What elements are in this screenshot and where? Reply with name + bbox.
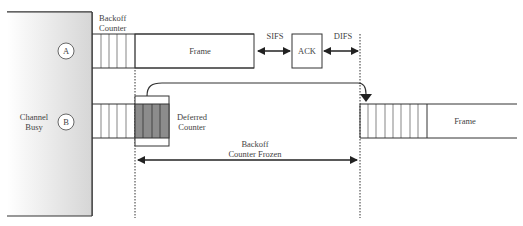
backoff-frozen-line1: Backoff	[210, 139, 300, 149]
frame-b-label: Frame	[445, 116, 485, 126]
station-b-label: B	[60, 117, 72, 127]
difs-label: DIFS	[328, 31, 358, 41]
station-a-label: A	[60, 46, 72, 56]
backoff-frozen-label: Backoff Counter Frozen	[210, 139, 300, 159]
station-a-backoff-counter	[92, 34, 254, 68]
backoff-counter-label-line2: Counter	[99, 23, 126, 33]
channel-busy-line2: Busy	[16, 122, 52, 132]
sifs-label: SIFS	[260, 31, 290, 41]
channel-busy-line1: Channel	[16, 112, 52, 122]
deferred-counter-block	[135, 96, 169, 146]
deferred-counter-line1: Deferred	[172, 112, 212, 122]
channel-busy-label: Channel Busy	[16, 112, 52, 132]
ack-label: ACK	[292, 46, 322, 56]
deferred-counter-label: Deferred Counter	[172, 112, 212, 132]
resume-arrowhead	[360, 94, 372, 102]
backoff-counter-label: Backoff Counter	[99, 13, 126, 33]
backoff-counter-label-line1: Backoff	[99, 13, 126, 23]
frame-a-label: Frame	[180, 46, 220, 56]
station-b-frame	[360, 104, 517, 138]
deferred-counter-line2: Counter	[172, 122, 212, 132]
backoff-frozen-line2: Counter Frozen	[210, 149, 300, 159]
resume-arrow	[147, 83, 366, 96]
